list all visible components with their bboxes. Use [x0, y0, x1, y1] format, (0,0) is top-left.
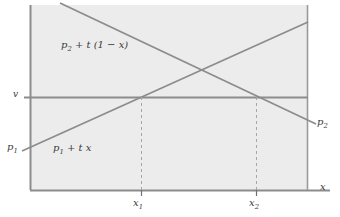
axis-label-v-text: v	[13, 89, 18, 99]
axis-label-x: x	[320, 182, 326, 192]
tick-label-x1: x1	[133, 198, 143, 211]
figure-container: v p1 p2 x p2 + t (1 − x) p1 + t x x1 x2	[0, 0, 340, 217]
axis-label-x-text: x	[320, 181, 326, 192]
tick-label-x2-subscript: 2	[255, 203, 259, 211]
curve-end-label-p2-subscript: 2	[323, 122, 327, 130]
curve-label-upper-rest: + t (1 − x)	[72, 39, 128, 50]
diagram-canvas	[0, 0, 340, 217]
curve-label-upper: p2 + t (1 − x)	[61, 40, 128, 53]
curve-label-lower-rest: + t x	[64, 142, 92, 153]
tick-label-x1-subscript: 1	[139, 203, 143, 211]
curve-end-label-p2: p2	[317, 117, 328, 130]
axis-label-p1-subscript: 1	[13, 147, 17, 155]
axis-label-v: v	[13, 90, 18, 99]
axis-label-p1: p1	[7, 142, 18, 155]
tick-label-x2: x2	[249, 198, 259, 211]
curve-label-lower: p1 + t x	[53, 143, 91, 156]
